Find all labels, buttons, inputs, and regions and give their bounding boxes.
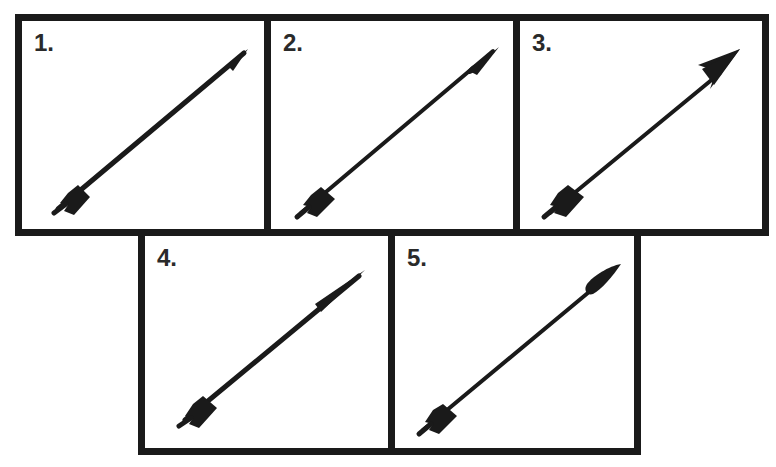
panel-5: 5. — [388, 229, 641, 455]
arrow-needle-icon — [22, 21, 264, 229]
panel-3: 3. — [513, 14, 769, 236]
arrow-broadhead-icon — [520, 21, 762, 229]
panel-4: 4. — [138, 229, 395, 455]
arrow-small-bodkin-icon — [271, 21, 513, 229]
arrow-leaf-icon — [395, 236, 634, 448]
arrow-tapered-icon — [145, 236, 388, 448]
panel-2: 2. — [264, 14, 520, 236]
panel-1: 1. — [15, 14, 271, 236]
